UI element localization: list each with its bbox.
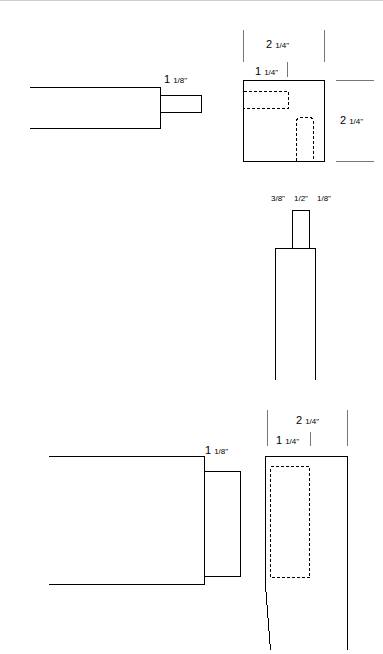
top-tenon-length-dimension: 11/8"	[164, 73, 187, 85]
bottom-leg-width-label: 21/4"	[296, 414, 319, 426]
bottom-mortise	[271, 467, 310, 578]
bottom-tenon-length-label: 11/8"	[205, 444, 228, 456]
top-leg-square	[244, 81, 325, 162]
tenon-width-label: 1/2"	[294, 194, 308, 203]
right-shoulder-label: 1/8"	[317, 194, 331, 203]
top-leg-height-label: 21/4"	[340, 114, 363, 126]
bottom-leg-offset-label: 11/4"	[276, 434, 299, 446]
joinery-drawing: 11/8" 21/4" 11/4" 21/4" 3/8" 1/2" 1/8" 1…	[0, 0, 383, 654]
top-rail-tenon	[161, 96, 202, 113]
top-leg-dimensions: 21/4" 11/4" 21/4"	[244, 30, 375, 162]
middle-tenon	[293, 211, 310, 249]
bottom-leg-side-view	[266, 457, 348, 651]
left-shoulder-label: 3/8"	[271, 194, 285, 203]
top-rail-side-view	[30, 88, 202, 129]
middle-rail-front-view: 3/8" 1/2" 1/8"	[271, 194, 331, 380]
bottom-rail-body	[49, 457, 205, 585]
bottom-rail-tenon	[205, 472, 241, 577]
top-tenon-length-label: 11/8"	[164, 73, 187, 85]
top-leg-offset-label: 11/4"	[255, 65, 278, 77]
bottom-leg-body	[266, 457, 348, 651]
top-rail-body	[30, 88, 161, 129]
top-mortise-horizontal	[244, 92, 289, 109]
top-mortise-vertical	[297, 118, 314, 162]
middle-rail-body	[276, 249, 316, 381]
top-leg-width-label: 21/4"	[266, 38, 289, 50]
bottom-leg-dimensions: 21/4" 11/4"	[268, 410, 348, 446]
bottom-rail-side-view: 11/8"	[49, 444, 241, 585]
top-leg-end-view	[244, 81, 325, 162]
